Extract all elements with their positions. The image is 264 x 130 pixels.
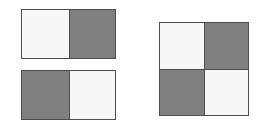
panel-right [159, 22, 249, 116]
cell-left-top-light-1 [22, 10, 69, 58]
cell-right-dark-3 [160, 69, 204, 115]
panel-left-bottom [21, 70, 116, 120]
cell-right-dark-2 [204, 23, 248, 69]
panel-left-top [21, 9, 116, 59]
figure-canvas: Checkerboard tiling comparison [0, 0, 264, 130]
cell-left-top-dark-2 [69, 10, 116, 58]
cell-right-light-4 [204, 69, 248, 115]
cell-right-light-1 [160, 23, 204, 69]
cell-left-bottom-light-2 [69, 71, 116, 119]
cell-left-bottom-dark-1 [22, 71, 69, 119]
